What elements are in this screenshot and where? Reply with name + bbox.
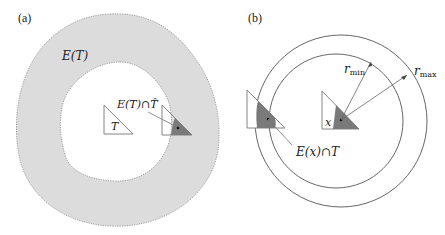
r-min-label: rmin (344, 62, 365, 77)
intersection-label-b: E(x)∩T (295, 145, 340, 159)
panel-b-label: (b) (248, 11, 262, 25)
r-max-arrowhead-icon (401, 75, 407, 80)
intersection-point (177, 127, 180, 130)
point-x-label: x (325, 116, 332, 129)
panel-a-label: (a) (18, 11, 31, 25)
r-max-label: rmax (414, 64, 437, 79)
region-e-t-label: E(T) (61, 49, 88, 63)
r-max-arrow (341, 75, 407, 120)
panel-b: (b) x rmin rmax E(x)∩T (247, 11, 437, 207)
panel-a: (a) E(T) T E(T)∩T̂ (16, 11, 219, 226)
figure: (a) E(T) T E(T)∩T̂ (b) x rmin rmax (0, 0, 445, 235)
intersection-label-a: E(T)∩T̂ (116, 98, 159, 111)
